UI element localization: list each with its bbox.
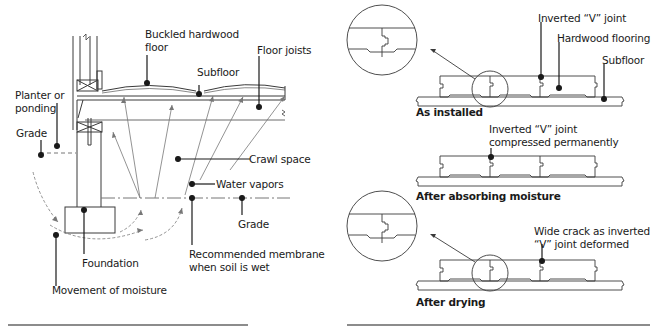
- label-wide-crack-line2: “V” joint deformed: [534, 238, 629, 250]
- caption-as-installed: As installed: [416, 106, 483, 118]
- right-divider: [347, 324, 650, 326]
- label-wide-crack-line1: Wide crack as inverted: [534, 225, 650, 237]
- label-water-vapors: Water vapors: [216, 178, 284, 190]
- caption-after-drying: After drying: [416, 296, 485, 308]
- flooring-joint-diagram: Inverted “V” joint Hardwood flooring Sub…: [330, 0, 658, 330]
- label-buckled-floor-line1: Buckled hardwood: [145, 28, 239, 40]
- label-grade-left: Grade: [16, 127, 47, 139]
- label-grade-right: Grade: [238, 218, 269, 230]
- label-joint-compressed-line2: compressed permanently: [489, 136, 619, 148]
- label-joint-compressed-line1: Inverted “V” joint: [489, 123, 577, 135]
- label-floor-joists: Floor joists: [257, 44, 311, 56]
- label-foundation: Foundation: [82, 257, 139, 269]
- crawl-space-diagram: Buckled hardwood floor Floor joists Subf…: [0, 0, 330, 330]
- label-membrane-line2: when soil is wet: [189, 261, 269, 273]
- label-buckled-floor-line2: floor: [145, 41, 168, 53]
- caption-after-absorbing-moisture: After absorbing moisture: [416, 190, 561, 202]
- label-planter-line2: ponding: [15, 102, 56, 114]
- label-membrane-line1: Recommended membrane: [189, 248, 325, 260]
- flooring-drawing: [330, 0, 658, 330]
- label-inverted-v-joint: Inverted “V” joint: [538, 12, 626, 24]
- left-divider: [8, 324, 248, 326]
- label-subfloor-right: Subfloor: [602, 54, 644, 66]
- label-hardwood-flooring: Hardwood flooring: [557, 32, 650, 44]
- label-subfloor: Subfloor: [197, 66, 239, 78]
- label-planter-line1: Planter or: [15, 89, 64, 101]
- label-crawl-space: Crawl space: [249, 153, 311, 165]
- label-movement-of-moisture: Movement of moisture: [52, 284, 167, 296]
